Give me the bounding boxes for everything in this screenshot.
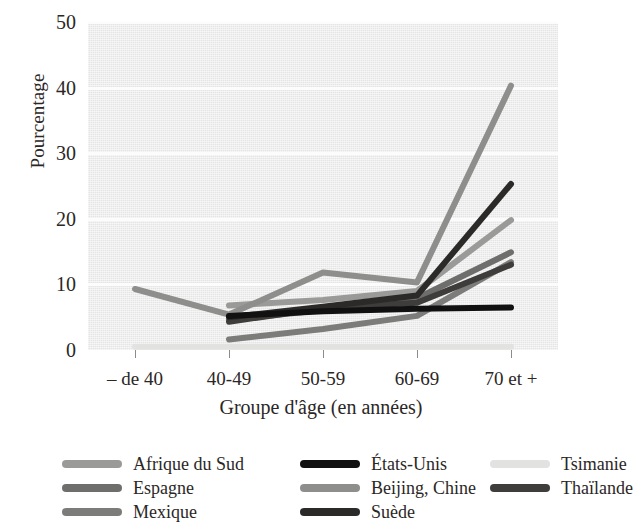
legend-item[interactable]: Espagne	[62, 476, 244, 500]
legend-column-2: TsimanieThaïlande	[490, 452, 633, 500]
legend-label: Tsimanie	[561, 455, 627, 473]
legend-swatch-icon	[62, 484, 122, 492]
y-tick-10: 10	[30, 274, 76, 294]
legend-label: Mexique	[133, 503, 197, 521]
legend-swatch-icon	[62, 508, 122, 516]
legend-label: Beijing, Chine	[371, 479, 476, 497]
legend-item[interactable]: Beijing, Chine	[300, 476, 476, 500]
legend-item[interactable]: Thaïlande	[490, 476, 633, 500]
legend-swatch-icon	[62, 460, 122, 468]
legend-column-0: Afrique du SudEspagneMexique	[62, 452, 244, 524]
x-tickmark-1	[229, 350, 230, 358]
legend-swatch-icon	[300, 508, 360, 516]
legend-label: Thaïlande	[561, 479, 633, 497]
legend-item[interactable]: Mexique	[62, 500, 244, 524]
series-line-tats-unis	[229, 307, 511, 316]
y-tick-30: 30	[30, 143, 76, 163]
legend-swatch-icon	[490, 484, 550, 492]
legend-label: Afrique du Sud	[133, 455, 244, 473]
chart-legend: Afrique du SudEspagneMexiqueÉtats-UnisBe…	[62, 452, 642, 526]
y-axis-title: Pourcentage	[27, 21, 49, 221]
plot-area	[88, 22, 558, 350]
legend-item[interactable]: Tsimanie	[490, 452, 633, 476]
legend-swatch-icon	[300, 460, 360, 468]
legend-column-1: États-UnisBeijing, ChineSuède	[300, 452, 476, 524]
x-tickmark-2	[323, 350, 324, 358]
legend-label: États-Unis	[371, 455, 447, 473]
series-lines	[88, 22, 558, 350]
x-tickmark-4	[511, 350, 512, 358]
legend-item[interactable]: Suède	[300, 500, 476, 524]
y-tick-50: 50	[30, 12, 76, 32]
legend-swatch-icon	[300, 484, 360, 492]
x-tick-label-4: 70 et +	[451, 368, 571, 390]
legend-label: Suède	[371, 503, 415, 521]
x-tickmark-3	[417, 350, 418, 358]
legend-item[interactable]: Afrique du Sud	[62, 452, 244, 476]
y-tick-40: 40	[30, 78, 76, 98]
x-tickmark-0	[135, 350, 136, 358]
y-tick-0: 0	[30, 340, 76, 360]
legend-item[interactable]: États-Unis	[300, 452, 476, 476]
legend-swatch-icon	[490, 460, 550, 468]
x-axis-title: Groupe d'âge (en années)	[0, 396, 642, 419]
y-tick-20: 20	[30, 209, 76, 229]
line-chart-figure: Pourcentage 01020304050 – de 4040-4950-5…	[0, 0, 642, 532]
legend-label: Espagne	[133, 479, 194, 497]
